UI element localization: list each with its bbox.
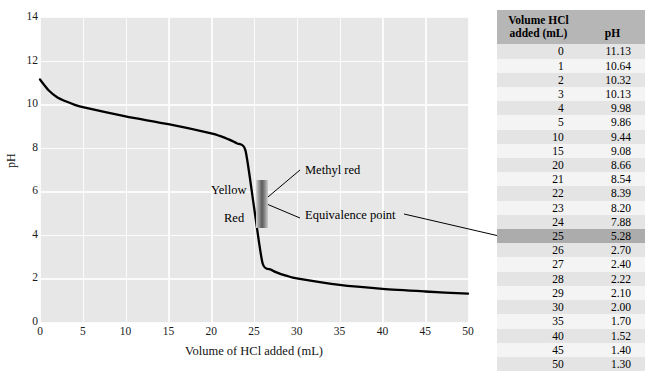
cell-volume: 22 [497,186,580,200]
cell-volume: 28 [497,272,580,286]
annotation-red: Red [224,212,244,225]
table-row[interactable]: 310.13 [497,87,645,101]
table-row[interactable]: 247.88 [497,215,645,229]
table-row[interactable]: 49.98 [497,101,645,115]
cell-ph: 2.70 [580,243,645,257]
table-row[interactable]: 208.66 [497,158,645,172]
cell-volume: 40 [497,329,580,343]
table-row[interactable]: 210.32 [497,73,645,87]
annotation-yellow: Yellow [211,184,247,197]
cell-volume: 24 [497,215,580,229]
cell-ph: 10.13 [580,87,645,101]
cell-ph: 2.22 [580,272,645,286]
table-row[interactable]: 255.28 [497,229,645,243]
cell-ph: 8.39 [580,186,645,200]
cell-ph: 9.08 [580,144,645,158]
cell-volume: 15 [497,144,580,158]
table-row[interactable]: 109.44 [497,130,645,144]
cell-volume: 3 [497,87,580,101]
table-row[interactable]: 59.86 [497,115,645,129]
cell-volume: 4 [497,101,580,115]
table-header: Volume HCl added (mL) pH [497,10,645,44]
table-row[interactable]: 282.22 [497,272,645,286]
table-row[interactable]: 011.13 [497,44,645,58]
table-row[interactable]: 302.00 [497,300,645,314]
cell-volume: 25 [497,229,580,243]
cell-ph: 10.32 [580,73,645,87]
cell-ph: 11.13 [580,44,645,58]
column-header-volume-line1: Volume HCl [508,14,569,26]
cell-ph: 10.64 [580,59,645,73]
ph-data-table: Volume HCl added (mL) pH 011.13110.64210… [497,10,645,371]
cell-volume: 21 [497,172,580,186]
cell-ph: 2.10 [580,286,645,300]
cell-volume: 23 [497,201,580,215]
cell-ph: 9.44 [580,130,645,144]
cell-volume: 1 [497,59,580,73]
cell-volume: 20 [497,158,580,172]
table-row[interactable]: 159.08 [497,144,645,158]
cell-volume: 30 [497,300,580,314]
table-row[interactable]: 451.40 [497,343,645,357]
table-row[interactable]: 110.64 [497,59,645,73]
leader-line-to-table-row [404,214,512,239]
table-row[interactable]: 238.20 [497,201,645,215]
cell-ph: 5.28 [580,229,645,243]
cell-ph: 8.66 [580,158,645,172]
cell-ph: 1.40 [580,343,645,357]
cell-ph: 1.70 [580,314,645,328]
cell-volume: 10 [497,130,580,144]
titration-chart: 14121086420 05101520253035404550 pH Volu… [0,0,480,379]
annotation-methyl-red: Methyl red [305,164,360,177]
cell-volume: 29 [497,286,580,300]
cell-volume: 35 [497,314,580,328]
cell-volume: 26 [497,243,580,257]
cell-ph: 1.30 [580,357,645,371]
cell-ph: 2.40 [580,257,645,271]
table-row[interactable]: 228.39 [497,186,645,200]
column-header-ph: pH [580,10,645,44]
cell-volume: 0 [497,44,580,58]
cell-ph: 9.98 [580,101,645,115]
cell-ph: 2.00 [580,300,645,314]
cell-ph: 8.54 [580,172,645,186]
table-row[interactable]: 501.30 [497,357,645,371]
annotation-equivalence-point: Equivalence point [305,209,396,222]
cell-volume: 45 [497,343,580,357]
cell-ph: 8.20 [580,201,645,215]
column-header-volume-line2: added (mL) [510,27,568,39]
cell-volume: 2 [497,73,580,87]
cell-volume: 27 [497,257,580,271]
cell-volume: 5 [497,115,580,129]
table-row[interactable]: 218.54 [497,172,645,186]
cell-volume: 50 [497,357,580,371]
methyl-red-indicator-band [256,180,268,228]
table-row[interactable]: 262.70 [497,243,645,257]
cell-ph: 9.86 [580,115,645,129]
column-header-volume: Volume HCl added (mL) [497,10,580,44]
table-row[interactable]: 272.40 [497,257,645,271]
titration-curve-path [40,80,468,294]
cell-ph: 1.52 [580,329,645,343]
table-header-row: Volume HCl added (mL) pH [497,10,645,44]
table-body: 011.13110.64210.32310.1349.9859.86109.44… [497,44,645,371]
table-row[interactable]: 292.10 [497,286,645,300]
table-row[interactable]: 351.70 [497,314,645,328]
cell-ph: 7.88 [580,215,645,229]
table-row[interactable]: 401.52 [497,329,645,343]
